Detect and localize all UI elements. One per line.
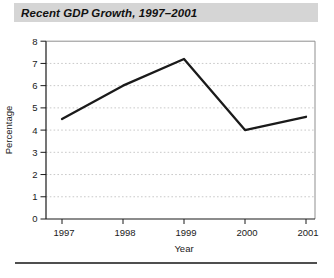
y-axis-title: Percentage <box>3 106 14 155</box>
gdp-line <box>62 59 306 130</box>
y-tick-label: 8 <box>32 36 37 47</box>
y-tick-label: 7 <box>32 58 37 69</box>
x-tick-label: 1998 <box>114 227 135 238</box>
gdp-line-chart: Percentage Year 012345678199719981999200… <box>0 0 334 278</box>
x-tick-label: 1997 <box>53 227 74 238</box>
y-tick-label: 4 <box>32 125 37 136</box>
y-tick-label: 2 <box>32 169 37 180</box>
x-tick-label: 1999 <box>175 227 196 238</box>
y-tick-label: 0 <box>32 213 37 224</box>
y-tick-label: 5 <box>32 102 37 113</box>
gdp-growth-figure: Recent GDP Growth, 1997–2001 Percentage … <box>0 0 334 278</box>
x-tick-label: 2001 <box>297 227 318 238</box>
y-tick-label: 3 <box>32 147 37 158</box>
y-tick-label: 6 <box>32 80 37 91</box>
y-tick-label: 1 <box>32 191 37 202</box>
x-tick-label: 2000 <box>236 227 257 238</box>
bottom-rule <box>15 262 317 264</box>
x-axis-title: Year <box>174 243 193 254</box>
